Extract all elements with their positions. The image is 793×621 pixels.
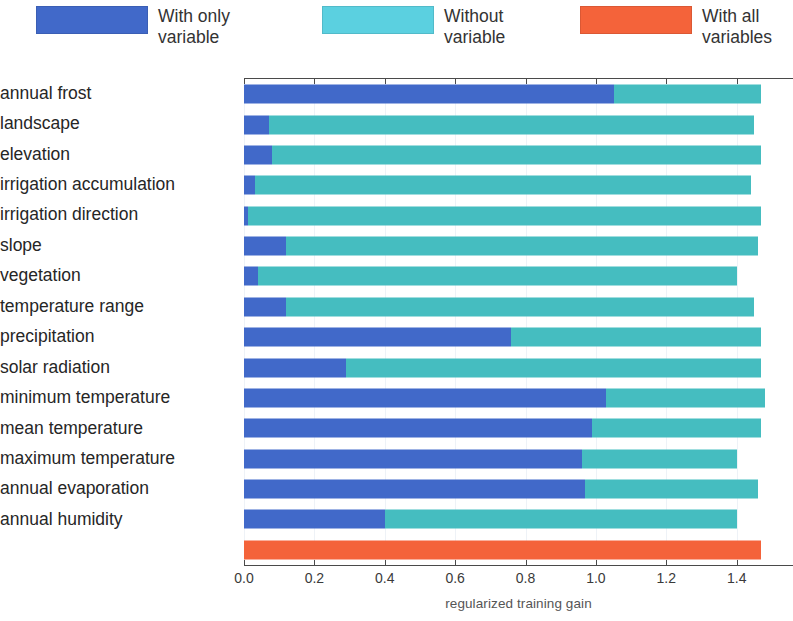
bar-row (244, 352, 793, 382)
bar-track (244, 388, 765, 407)
bar-segment-with-only-variable (244, 176, 255, 195)
x-axis-tick (737, 560, 738, 565)
x-axis-tick (526, 560, 527, 565)
chart-legend: With only variable Without variable With… (0, 0, 793, 62)
bar-segment-with-only-variable (244, 115, 269, 134)
bar-chart: annual frostlandscapeelevationirrigation… (0, 62, 793, 621)
bar-row (244, 140, 793, 170)
x-axis-tick-label: 0.6 (445, 570, 464, 586)
bar-segment-with-only-variable (244, 449, 582, 468)
y-axis-label: elevation (0, 139, 244, 169)
legend-entry-with-all-variables: With all variables (580, 6, 772, 48)
bar-segment-with-only-variable (244, 419, 592, 438)
bar-row (244, 201, 793, 231)
bar-row (244, 413, 793, 443)
bar-segment-without-variable (606, 388, 764, 407)
x-axis-tick-label: 1.4 (727, 570, 746, 586)
y-axis-label: irrigation accumulation (0, 169, 244, 199)
bar-track-overall (244, 540, 761, 559)
bar-segment-without-variable (258, 267, 737, 286)
bar-segment-with-only-variable (244, 358, 346, 377)
bar-segment-with-all-variables (244, 540, 761, 559)
bar-row (244, 170, 793, 200)
y-axis-label: precipitation (0, 322, 244, 352)
x-axis-title: regularized training gain (244, 596, 793, 611)
bar-segment-without-variable (272, 145, 761, 164)
bar-segment-with-only-variable (244, 145, 272, 164)
x-axis-tick (455, 560, 456, 565)
bar-segment-with-only-variable (244, 388, 606, 407)
x-axis-tick-label: 1.2 (657, 570, 676, 586)
y-axis-label-overall (0, 535, 244, 565)
bar-track (244, 206, 761, 225)
x-axis-tick (385, 560, 386, 565)
bar-segment-with-only-variable (244, 267, 258, 286)
y-axis-label: vegetation (0, 261, 244, 291)
bar-segment-without-variable (585, 480, 757, 499)
y-axis-label: temperature range (0, 291, 244, 321)
bar-track (244, 358, 761, 377)
x-axis-tick-label: 0.2 (305, 570, 324, 586)
y-axis-label: irrigation direction (0, 200, 244, 230)
x-axis-line (244, 565, 793, 566)
bar-track (244, 176, 751, 195)
bar-segment-without-variable (255, 176, 751, 195)
bar-segment-with-only-variable (244, 85, 614, 104)
bar-segment-with-only-variable (244, 297, 286, 316)
bar-segment-without-variable (592, 419, 761, 438)
bar-row (244, 292, 793, 322)
bar-rows (244, 79, 793, 565)
legend-entry-with-only-variable: With only variable (36, 6, 230, 48)
x-axis-tick (244, 560, 245, 565)
bar-segment-without-variable (286, 297, 754, 316)
y-axis-label: annual frost (0, 78, 244, 108)
bar-row (244, 109, 793, 139)
bar-track (244, 480, 758, 499)
x-axis-tick-label: 1.0 (586, 570, 605, 586)
y-axis-category-labels: annual frostlandscapeelevationirrigation… (0, 78, 244, 565)
bar-segment-without-variable (614, 85, 762, 104)
y-axis-label: minimum temperature (0, 382, 244, 412)
x-axis-tick-label: 0.4 (375, 570, 394, 586)
x-axis-tick (596, 560, 597, 565)
bar-row-overall (244, 535, 793, 565)
x-axis-tick-label: 0.8 (516, 570, 535, 586)
y-axis-label: landscape (0, 108, 244, 138)
bar-segment-with-only-variable (244, 510, 385, 529)
bar-row (244, 383, 793, 413)
bar-segment-with-only-variable (244, 328, 511, 347)
plot-area (244, 78, 793, 565)
x-axis-tick (314, 560, 315, 565)
bar-segment-without-variable (385, 510, 737, 529)
legend-label-without-variable: Without variable (444, 6, 505, 48)
x-axis-tick-label: 0.0 (234, 570, 253, 586)
legend-swatch-with-only-variable (36, 6, 148, 34)
bar-track (244, 297, 754, 316)
bar-track (244, 449, 737, 468)
y-axis-label: solar radiation (0, 352, 244, 382)
bar-row (244, 474, 793, 504)
bar-segment-without-variable (346, 358, 761, 377)
x-axis: 0.00.20.40.60.81.01.21.4 regularized tra… (244, 565, 793, 621)
bar-segment-without-variable (582, 449, 737, 468)
legend-swatch-without-variable (322, 6, 434, 34)
x-axis-tick (666, 560, 667, 565)
bar-row (244, 322, 793, 352)
y-axis-label: slope (0, 230, 244, 260)
bar-row (244, 261, 793, 291)
bar-segment-without-variable (248, 206, 762, 225)
bar-track (244, 328, 761, 347)
bar-track (244, 115, 754, 134)
y-axis-label: annual humidity (0, 504, 244, 534)
bar-track (244, 510, 737, 529)
y-axis-label: mean temperature (0, 413, 244, 443)
bar-row (244, 231, 793, 261)
bar-track (244, 85, 761, 104)
bar-segment-without-variable (286, 237, 758, 256)
legend-entry-without-variable: Without variable (322, 6, 505, 48)
y-axis-label: maximum temperature (0, 443, 244, 473)
legend-label-with-only-variable: With only variable (158, 6, 230, 48)
bar-row (244, 79, 793, 109)
bar-track (244, 267, 737, 286)
bar-track (244, 237, 758, 256)
